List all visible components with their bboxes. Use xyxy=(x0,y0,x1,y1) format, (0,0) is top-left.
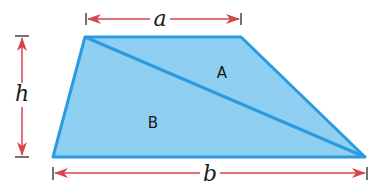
label-h: h xyxy=(15,81,29,106)
bottom-base-dimension: b xyxy=(53,161,367,186)
region-a-label: A xyxy=(217,64,228,82)
top-base-dimension: a xyxy=(86,6,241,31)
height-dimension: h xyxy=(15,36,29,157)
trapezoid-area-diagram: A B a b h xyxy=(0,0,380,192)
region-b-label: B xyxy=(148,114,158,132)
label-b: b xyxy=(203,161,217,186)
trapezoid-shape xyxy=(53,37,365,157)
label-a: a xyxy=(153,6,166,31)
